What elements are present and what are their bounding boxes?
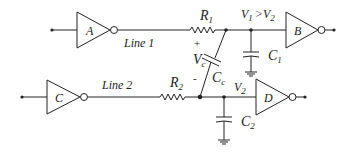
capacitor-c2-label: C2 xyxy=(241,114,255,131)
gate-b-output-dot xyxy=(332,28,335,31)
gate-d-output-dot xyxy=(303,95,306,98)
resistor-r1-label: R1 xyxy=(199,8,213,25)
gate-b: B xyxy=(286,12,336,48)
v1-gt-v2-label: V1>V2 xyxy=(241,7,275,23)
gate-d-bubble xyxy=(289,94,296,101)
gate-b-bubble xyxy=(318,27,325,34)
gate-c-bubble xyxy=(81,94,88,101)
vc-minus-sign: - xyxy=(193,72,197,84)
line-1-label: Line 1 xyxy=(123,36,154,50)
gate-a: A xyxy=(50,12,117,48)
gate-c: C xyxy=(20,80,87,114)
capacitor-c1-label: C1 xyxy=(268,48,282,65)
vc-label: Vc xyxy=(193,52,206,69)
v2-label: V2 xyxy=(234,80,246,96)
gate-b-label: B xyxy=(294,24,302,38)
gate-c-triangle xyxy=(47,80,80,114)
gate-c-label: C xyxy=(55,91,64,105)
gate-a-triangle xyxy=(77,12,110,48)
vc-plus-sign: + xyxy=(194,37,200,49)
resistor-r1-zigzag xyxy=(190,27,215,33)
capacitor-cc-label: Cc xyxy=(212,70,225,87)
capacitor-cc-plate-top xyxy=(204,54,221,62)
resistor-r2: R2 xyxy=(160,75,185,100)
capacitor-c1: C1 xyxy=(243,30,282,72)
gate-d-label: D xyxy=(263,91,273,105)
resistor-r2-zigzag xyxy=(160,94,185,100)
gate-a-label: A xyxy=(85,24,94,38)
gate-a-bubble xyxy=(111,27,118,34)
resistor-r2-label: R2 xyxy=(169,75,184,92)
line-2-label: Line 2 xyxy=(101,78,132,92)
junction-cc-bottom xyxy=(198,95,203,100)
circuit-diagram: A Line 1 R1 V1>V2 C1 B Cc + xyxy=(0,0,352,155)
resistor-r1: R1 xyxy=(190,8,215,33)
capacitor-c2: C2 xyxy=(216,97,255,140)
ground-c1-icon xyxy=(245,72,257,76)
gate-d: D xyxy=(256,79,307,115)
gate-b-triangle xyxy=(286,12,318,48)
ground-c2-icon xyxy=(218,140,230,144)
